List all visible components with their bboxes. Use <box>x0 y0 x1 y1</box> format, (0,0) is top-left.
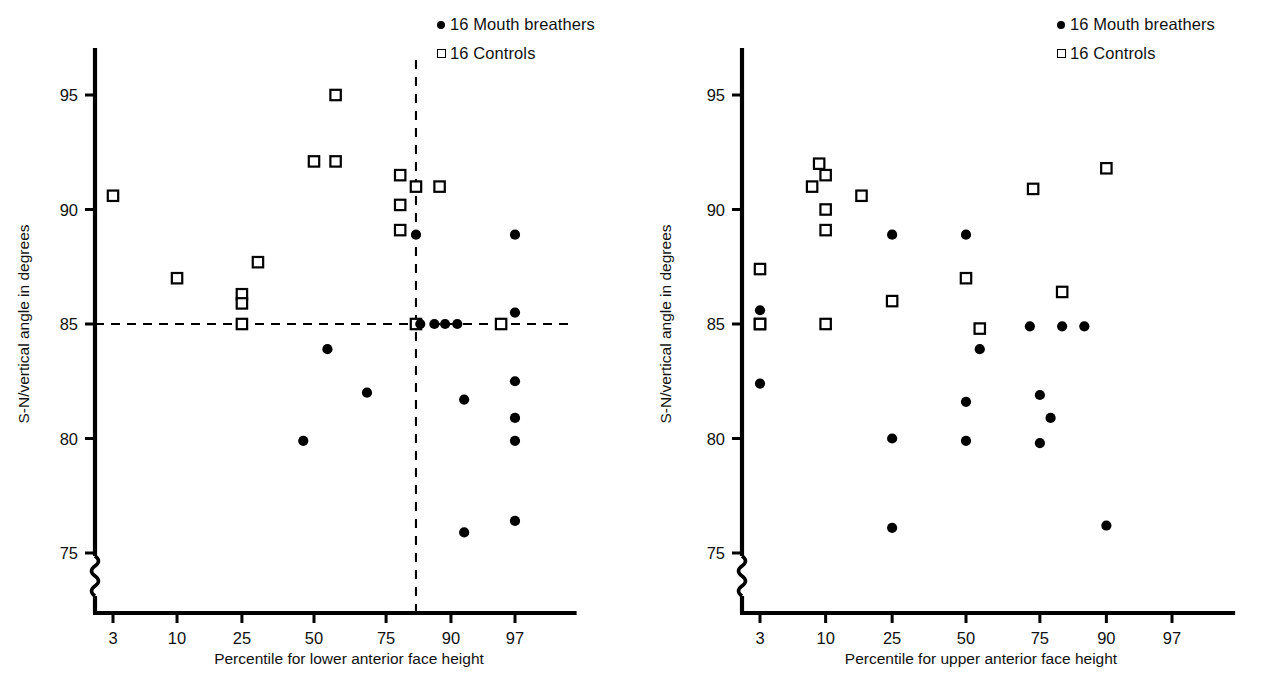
data-point-open-square <box>253 257 263 267</box>
y-tick-label: 80 <box>707 430 725 448</box>
y-tick-label: 75 <box>60 544 78 562</box>
data-point-filled-circle <box>510 516 520 526</box>
y-tick-label: 90 <box>707 201 725 219</box>
legend-item-controls: 16 Controls <box>1052 39 1284 68</box>
y-tick-label: 95 <box>707 86 725 104</box>
data-point-filled-circle <box>322 344 332 354</box>
y-tick-label: 80 <box>60 430 78 448</box>
data-point-filled-circle <box>755 305 765 315</box>
data-point-filled-circle <box>887 433 897 443</box>
data-point-open-square <box>975 323 985 333</box>
data-point-filled-circle <box>415 319 425 329</box>
x-tick-label: 97 <box>1163 629 1181 647</box>
legend-label-mouth-breathers: 16 Mouth breathers <box>450 15 595 34</box>
data-point-filled-circle <box>961 436 971 446</box>
data-point-open-square <box>820 225 830 235</box>
y-tick-label: 85 <box>707 315 725 333</box>
x-tick-label: 3 <box>755 629 764 647</box>
x-tick-label: 97 <box>506 629 524 647</box>
data-point-open-square <box>1028 184 1038 194</box>
axis-break-squiggle <box>92 556 99 596</box>
x-tick-label: 10 <box>168 629 186 647</box>
x-tick-label: 25 <box>883 629 901 647</box>
data-point-open-square <box>395 170 405 180</box>
data-point-filled-circle <box>510 376 520 386</box>
data-point-filled-circle <box>1057 321 1067 331</box>
data-point-open-square <box>108 191 118 201</box>
data-point-open-square <box>395 225 405 235</box>
scatter-plot-left: 75808590953102550759097 <box>0 0 642 694</box>
series-controls <box>108 90 506 329</box>
data-point-open-square <box>1057 287 1067 297</box>
chart-panel-left: 75808590953102550759097 16 Mouth breathe… <box>0 0 642 694</box>
data-point-open-square <box>961 273 971 283</box>
data-point-filled-circle <box>459 394 469 404</box>
data-point-open-square <box>330 156 340 166</box>
legend-label-controls: 16 Controls <box>450 44 535 63</box>
data-point-filled-circle <box>440 319 450 329</box>
data-point-filled-circle <box>510 230 520 240</box>
data-point-filled-circle <box>298 436 308 446</box>
y-tick-label: 95 <box>60 86 78 104</box>
filled-circle-icon <box>1052 21 1070 29</box>
data-point-open-square <box>887 296 897 306</box>
data-point-filled-circle <box>961 230 971 240</box>
chart-panel-right: 75808590953102550759097 16 Mouth breathe… <box>642 0 1284 694</box>
data-point-open-square <box>309 156 319 166</box>
filled-circle-icon <box>432 21 450 29</box>
series-mouth-breathers <box>755 230 1112 533</box>
data-point-filled-circle <box>1035 390 1045 400</box>
scatter-plot-right: 75808590953102550759097 <box>642 0 1284 694</box>
data-point-filled-circle <box>429 319 439 329</box>
legend-right: 16 Mouth breathers 16 Controls <box>1052 10 1284 68</box>
y-axis-label-right: S-N/vertical angle in degrees <box>657 159 675 489</box>
data-point-open-square <box>1101 163 1111 173</box>
x-tick-label: 3 <box>108 629 117 647</box>
data-point-open-square <box>820 204 830 214</box>
axis-break-squiggle <box>739 556 746 596</box>
y-tick-label: 90 <box>60 201 78 219</box>
open-square-icon <box>1052 49 1070 58</box>
data-point-filled-circle <box>1045 413 1055 423</box>
data-point-open-square <box>330 90 340 100</box>
x-tick-label: 10 <box>816 629 834 647</box>
data-point-filled-circle <box>510 413 520 423</box>
y-axis-label-left: S-N/vertical angle in degrees <box>15 159 33 489</box>
y-tick-label: 85 <box>60 315 78 333</box>
data-point-filled-circle <box>1101 520 1111 530</box>
data-point-filled-circle <box>452 319 462 329</box>
data-point-filled-circle <box>961 397 971 407</box>
data-point-filled-circle <box>887 523 897 533</box>
data-point-open-square <box>237 298 247 308</box>
x-tick-label: 90 <box>442 629 460 647</box>
data-point-filled-circle <box>459 527 469 537</box>
data-point-open-square <box>395 200 405 210</box>
data-point-filled-circle <box>887 230 897 240</box>
data-point-filled-circle <box>411 230 421 240</box>
data-point-open-square <box>172 273 182 283</box>
series-controls <box>755 159 1112 334</box>
data-point-open-square <box>814 159 824 169</box>
x-tick-label: 25 <box>233 629 251 647</box>
legend-label-controls: 16 Controls <box>1070 44 1155 63</box>
x-axis-label-right: Percentile for upper anterior face heigh… <box>660 650 1284 668</box>
data-point-open-square <box>496 319 506 329</box>
data-point-open-square <box>807 181 817 191</box>
data-point-filled-circle <box>1079 321 1089 331</box>
open-square-icon <box>432 49 450 58</box>
x-tick-label: 75 <box>377 629 395 647</box>
data-point-open-square <box>856 191 866 201</box>
data-point-open-square <box>820 170 830 180</box>
data-point-open-square <box>411 181 421 191</box>
y-tick-label: 75 <box>707 544 725 562</box>
x-axis-label-left: Percentile for lower anterior face heigh… <box>28 650 670 668</box>
x-tick-label: 50 <box>957 629 975 647</box>
data-point-open-square <box>755 319 765 329</box>
figure-root: 75808590953102550759097 16 Mouth breathe… <box>0 0 1284 694</box>
data-point-filled-circle <box>975 344 985 354</box>
data-point-filled-circle <box>362 388 372 398</box>
x-tick-label: 90 <box>1097 629 1115 647</box>
legend-label-mouth-breathers: 16 Mouth breathers <box>1070 15 1215 34</box>
data-point-open-square <box>755 264 765 274</box>
data-point-filled-circle <box>1035 438 1045 448</box>
